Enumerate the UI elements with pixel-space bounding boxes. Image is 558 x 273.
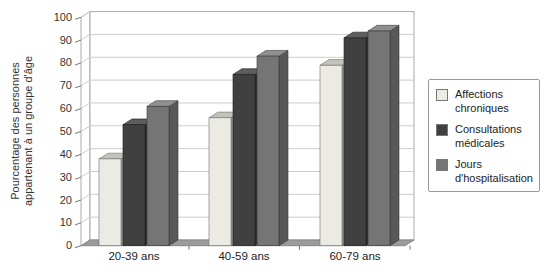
x-tick-label-20-39-ans: 20-39 ans (89, 250, 179, 263)
bar-jours-d-hospitalisation-40-59-ans (257, 56, 279, 246)
y-axis-tick (75, 246, 81, 248)
bar-side-jours-d-hospitalisation-60-79-ans (390, 25, 399, 245)
y-tick-label: 90 (38, 34, 72, 47)
x-tick-label-60-79-ans: 60-79 ans (310, 250, 400, 263)
bar-side-jours-d-hospitalisation-40-59-ans (279, 50, 288, 245)
x-tick-label-40-59-ans: 40-59 ans (199, 250, 289, 263)
bar-jours-d-hospitalisation-60-79-ans (368, 31, 390, 246)
y-axis-tick (75, 63, 81, 65)
bar-jours-d-hospitalisation-20-39-ans (147, 106, 169, 245)
chart-figure: Pourcentage des personnes appartenant à … (0, 0, 558, 273)
y-axis-tick (75, 223, 81, 225)
bar-affections-chroniques-20-39-ans (99, 159, 121, 246)
bar-affections-chroniques-40-59-ans (209, 118, 231, 246)
y-tick-label: 60 (38, 102, 72, 115)
y-axis-tick (75, 154, 81, 156)
legend-label: Consultations médicales (455, 123, 535, 150)
y-tick-label: 0 (38, 239, 72, 252)
y-tick-label: 40 (38, 148, 72, 161)
legend-swatch-consultations-medicales (436, 124, 448, 136)
bar-consultations-m-dicales-40-59-ans (233, 74, 255, 245)
y-axis-tick (75, 132, 81, 134)
y-tick-label: 100 (38, 11, 72, 24)
y-tick-label: 10 (38, 216, 72, 229)
legend-item-consultations-medicales: Consultations médicales (436, 123, 535, 150)
bar-side-jours-d-hospitalisation-20-39-ans (169, 101, 178, 246)
y-tick-label: 70 (38, 79, 72, 92)
y-tick-label: 50 (38, 125, 72, 138)
y-axis-tick (75, 200, 81, 202)
y-tick-label: 20 (38, 194, 72, 207)
y-tick-label: 30 (38, 171, 72, 184)
legend-swatch-jours-hospitalisation (436, 159, 448, 171)
y-axis-tick (75, 177, 81, 179)
bar-affections-chroniques-60-79-ans (320, 65, 342, 245)
y-axis-tick (75, 40, 81, 42)
legend-swatch-affections-chroniques (436, 89, 448, 101)
y-axis-tick (75, 86, 81, 88)
legend-label: Jours d'hospitalisation (455, 158, 535, 185)
legend-label: Affections chroniques (455, 88, 535, 115)
y-axis-tick (75, 109, 81, 111)
y-axis-tick (75, 17, 81, 19)
legend: Affections chroniques Consultations médi… (428, 79, 540, 192)
bar-consultations-m-dicales-20-39-ans (123, 125, 145, 246)
legend-item-affections-chroniques: Affections chroniques (436, 88, 535, 115)
y-tick-label: 80 (38, 56, 72, 69)
legend-item-jours-hospitalisation: Jours d'hospitalisation (436, 158, 535, 185)
bar-consultations-m-dicales-60-79-ans (344, 38, 366, 246)
